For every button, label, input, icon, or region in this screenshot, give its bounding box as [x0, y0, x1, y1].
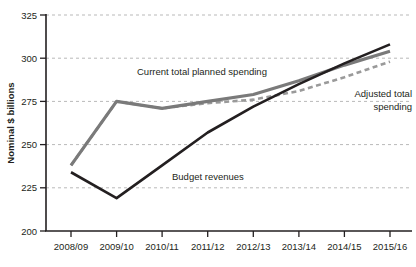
x-tick-label-7: 2015/16 — [373, 241, 407, 252]
x-tick-label-6: 2014/15 — [327, 241, 361, 252]
x-tick-label-2: 2010/11 — [145, 241, 179, 252]
plot-area — [46, 15, 390, 231]
line-chart: 325 300 275 250 225 200 Nominal $ billio… — [0, 0, 416, 267]
y-tick-label-250: 250 — [21, 139, 37, 150]
x-tick-label-3: 2011/12 — [191, 241, 225, 252]
x-tick-label-4: 2012/13 — [236, 241, 270, 252]
y-tick-marks — [40, 15, 46, 231]
annotation-adjusted-total-spending-line1: Adjusted total — [354, 88, 412, 99]
x-tick-label-5: 2013/14 — [282, 241, 316, 252]
y-axis-title: Nominal $ billions — [5, 82, 16, 163]
y-tick-label-325: 325 — [21, 10, 37, 21]
y-tick-label-300: 300 — [21, 53, 37, 64]
annotation-current-total-planned-spending: Current total planned spending — [137, 66, 267, 77]
x-tick-label-0: 2008/09 — [54, 241, 88, 252]
chart-container: 325 300 275 250 225 200 Nominal $ billio… — [0, 0, 416, 267]
x-tick-label-1: 2009/10 — [99, 241, 133, 252]
annotation-adjusted-total-spending-line2: spending — [373, 101, 412, 112]
y-tick-label-275: 275 — [21, 96, 37, 107]
y-tick-label-225: 225 — [21, 182, 37, 193]
annotation-budget-revenues: Budget revenues — [172, 171, 244, 182]
x-tick-marks — [71, 231, 390, 237]
y-tick-label-200: 200 — [21, 226, 37, 237]
